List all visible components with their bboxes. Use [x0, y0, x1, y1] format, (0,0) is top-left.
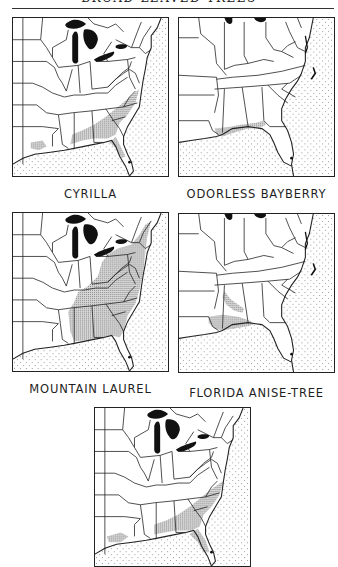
bottom-map-svg: [95, 408, 250, 566]
map-label-florida-anise-tree: FLORIDA ANISE-TREE: [178, 386, 335, 400]
florida-anise-tree-map-svg: [179, 214, 334, 372]
map-label-odorless-bayberry: ODORLESS BAYBERRY: [178, 187, 335, 201]
odorless-bayberry-map-svg: [179, 18, 334, 176]
map-label-mountain-laurel: MOUNTAIN LAUREL: [12, 382, 169, 396]
range-map-florida-anise-tree: [178, 213, 335, 373]
range-map-bottom: [94, 407, 251, 567]
range-map-cyrilla: [12, 17, 169, 177]
florida-anise-tree-base-map: [179, 214, 334, 372]
mountain-laurel-map-svg: [13, 213, 168, 371]
odorless-bayberry-base-map: [179, 18, 334, 176]
header-rule: [12, 8, 334, 9]
range-map-odorless-bayberry: [178, 17, 335, 177]
cyrilla-map-svg: [13, 18, 168, 176]
range-map-mountain-laurel: [12, 212, 169, 372]
map-label-cyrilla: CYRILLA: [12, 187, 169, 201]
running-header: BROAD-LEAVED TREES: [0, 0, 338, 5]
cyrilla-base-map: [13, 18, 168, 176]
